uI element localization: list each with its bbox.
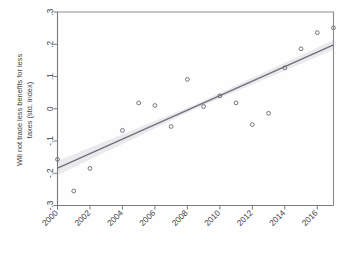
y-axis-title-line2: taxes (std. index) [25,82,34,138]
data-point [299,47,303,51]
data-point [169,125,173,129]
y-axis-tick-labels: -.3-.2-.10.1.2.3 [45,8,55,210]
data-point [250,123,254,127]
data-point [137,101,141,105]
y-tick-label: -.1 [45,136,55,146]
y-tick-label: .3 [45,8,55,15]
x-tick-label: 2010 [202,208,222,228]
x-tick-label: 2006 [137,208,157,228]
y-tick-label: .1 [45,73,55,80]
data-point [234,101,238,105]
x-tick-label: 2000 [40,208,60,228]
confidence-band-group [58,40,334,175]
data-point [185,78,189,82]
y-axis-title: Will not trade less benefits for less ta… [15,54,34,166]
y-tick-label: .2 [45,40,55,47]
y-axis-title-line1: Will not trade less benefits for less [15,54,24,166]
x-tick-label: 2016 [300,208,320,228]
data-point [153,104,157,108]
scatter-plot-figure: -.3-.2-.10.1.2.3 20002002200420062008201… [0,0,350,253]
x-tick-label: 2002 [72,208,92,228]
x-tick-label: 2014 [267,208,287,228]
x-axis-tick-labels: 200020022004200620082010201220142016 [40,208,320,228]
x-tick-label: 2004 [105,208,125,228]
regression-line [58,45,334,168]
data-point [72,189,76,193]
y-tick-label: -.2 [45,168,55,178]
data-point [121,128,125,132]
x-tick-label: 2012 [235,208,255,228]
confidence-band [58,40,334,175]
data-point [267,111,271,115]
y-tick-label: 0 [45,106,55,111]
regression-line-group [58,45,334,168]
plot-canvas: -.3-.2-.10.1.2.3 20002002200420062008201… [0,0,350,253]
data-point [315,31,319,35]
data-point [88,167,92,171]
x-tick-label: 2008 [170,208,190,228]
data-points-group [56,26,336,193]
